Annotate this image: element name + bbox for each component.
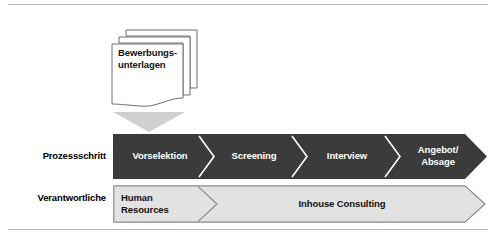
process-step-vorselektion[interactable]: Vorselektion bbox=[117, 150, 203, 162]
responsible-hr-line-2: Resources bbox=[121, 204, 201, 216]
row-label-verantwortliche: Verantwortliche bbox=[8, 192, 106, 203]
document-stack-label: Bewerbungs- unterlagen bbox=[118, 47, 200, 70]
process-step-angebot-line-2: Absage bbox=[399, 156, 477, 168]
responsible-human-resources[interactable]: Human Resources bbox=[121, 192, 201, 215]
process-step-interview[interactable]: Interview bbox=[306, 150, 388, 162]
responsible-hr-line-1: Human bbox=[121, 192, 201, 204]
process-step-band: Vorselektion Screening Interview Angebot… bbox=[113, 134, 487, 179]
responsible-inhouse-consulting[interactable]: Inhouse Consulting bbox=[217, 198, 467, 210]
diagram-canvas: Bewerbungs- unterlagen Prozessschritt Vo… bbox=[0, 0, 496, 240]
document-label-line-1: Bewerbungs- bbox=[118, 47, 200, 59]
row-label-prozessschritt: Prozessschritt bbox=[8, 150, 106, 161]
document-label-line-2: unterlagen bbox=[118, 59, 200, 71]
process-step-angebot-line-1: Angebot/ bbox=[399, 144, 477, 156]
process-step-angebot-absage[interactable]: Angebot/ Absage bbox=[399, 144, 477, 167]
process-step-screening[interactable]: Screening bbox=[213, 150, 295, 162]
bottom-divider bbox=[8, 229, 488, 230]
top-divider bbox=[8, 4, 488, 5]
responsible-band: Human Resources Inhouse Consulting bbox=[113, 185, 487, 223]
down-triangle-icon bbox=[113, 112, 185, 132]
